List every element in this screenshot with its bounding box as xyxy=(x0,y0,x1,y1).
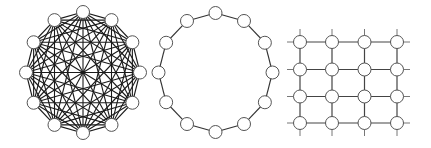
graph-node xyxy=(391,117,404,130)
graph-node xyxy=(27,36,40,49)
graph-node xyxy=(358,117,371,130)
graph-node xyxy=(294,90,307,103)
graph-node xyxy=(294,63,307,76)
graph-node xyxy=(358,36,371,49)
graph-node xyxy=(258,96,271,109)
graph-node xyxy=(209,7,222,20)
graph-node xyxy=(160,96,173,109)
graph-node xyxy=(391,36,404,49)
graph-node xyxy=(266,66,279,79)
graph-node xyxy=(181,14,194,27)
graph-node xyxy=(105,14,118,27)
graph-node xyxy=(134,66,147,79)
graph-node xyxy=(181,118,194,131)
graph-node xyxy=(326,90,339,103)
graph-node xyxy=(126,36,139,49)
graph-node xyxy=(238,118,251,131)
graph-node xyxy=(391,90,404,103)
graph-node xyxy=(48,14,61,27)
graph-node xyxy=(27,96,40,109)
graph-node xyxy=(358,63,371,76)
graph-node xyxy=(152,66,165,79)
graph-node xyxy=(77,6,90,19)
graph-node xyxy=(20,66,33,79)
graph-node xyxy=(48,118,61,131)
graph-node xyxy=(391,63,404,76)
graph-node xyxy=(126,96,139,109)
graph-node xyxy=(160,36,173,49)
ring-graph xyxy=(152,7,279,139)
complete-graph xyxy=(20,6,147,140)
graph-node xyxy=(326,117,339,130)
graph-node xyxy=(326,63,339,76)
graph-node xyxy=(77,127,90,140)
graph-node xyxy=(238,14,251,27)
graph-node xyxy=(105,118,118,131)
graph-node xyxy=(294,117,307,130)
graph-node xyxy=(326,36,339,49)
graph-node xyxy=(209,126,222,139)
graph-node xyxy=(258,36,271,49)
graph-node xyxy=(294,36,307,49)
grid-lattice-graph xyxy=(287,29,410,136)
graph-node xyxy=(358,90,371,103)
network-topology-diagram xyxy=(0,0,431,148)
